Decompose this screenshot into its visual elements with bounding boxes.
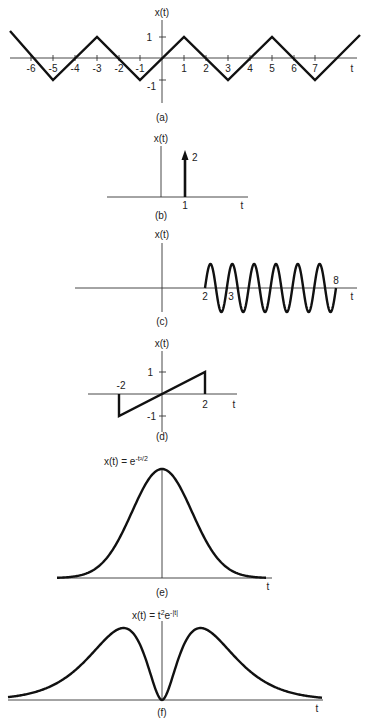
c-xtick: 3 — [228, 291, 234, 302]
f-t2-exp-curve — [8, 628, 322, 700]
a-xlabel: t — [351, 63, 354, 74]
f-caption: (f) — [157, 707, 166, 718]
d-ytick-1: 1 — [147, 367, 153, 378]
panel-c: x(t) 2 3 8 t (c) — [75, 229, 357, 327]
panel-f: x(t) = t2e-|t| t (f) — [8, 609, 323, 718]
e-xlabel: t — [267, 581, 270, 592]
d-caption: (d) — [156, 431, 168, 442]
b-impulse-label: 2 — [192, 152, 198, 163]
a-xtick: 5 — [269, 63, 275, 74]
a-ylabel: x(t) — [155, 7, 169, 18]
e-ylabel: x(t) = e-t²/2 — [104, 455, 148, 467]
e-caption: (e) — [156, 587, 168, 598]
c-xlabel: t — [351, 291, 354, 302]
panel-b: x(t) 2 1 t (b) — [107, 133, 248, 221]
panel-e: x(t) = e-t²/2 t (e) — [57, 455, 272, 598]
c-caption: (c) — [156, 316, 168, 327]
a-xtick: -6 — [27, 63, 36, 74]
a-xtick: -2 — [115, 63, 124, 74]
a-xtick: 7 — [312, 63, 318, 74]
c-ylabel: x(t) — [155, 229, 169, 240]
panel-d: x(t) 1 -1 -2 2 t (d) — [88, 338, 237, 442]
a-xtick: 6 — [291, 63, 297, 74]
a-xtick: 1 — [181, 63, 187, 74]
b-xtick: 1 — [182, 200, 188, 211]
a-xtick: 3 — [225, 63, 231, 74]
b-xlabel: t — [241, 200, 244, 211]
a-xtick: -1 — [136, 63, 145, 74]
arrow-up-icon — [182, 150, 189, 160]
a-xtick: -5 — [49, 63, 58, 74]
a-xtick: -4 — [71, 63, 80, 74]
a-xtick: 4 — [247, 63, 253, 74]
d-xtick: -2 — [117, 380, 126, 391]
b-ylabel: x(t) — [154, 133, 168, 144]
c-xtick: 8 — [333, 275, 339, 286]
a-ytick-1: 1 — [146, 32, 152, 43]
d-xlabel: t — [233, 399, 236, 410]
d-xtick: 2 — [202, 399, 208, 410]
f-xlabel: t — [316, 703, 319, 714]
a-ytick-neg1: -1 — [147, 81, 156, 92]
a-xtick: -3 — [93, 63, 102, 74]
f-ylabel: x(t) = t2e-|t| — [132, 609, 178, 621]
panel-a: x(t) 1 -1 -6 -5 -4 -3 -2 -1 1 2 3 4 5 6 … — [10, 7, 360, 123]
a-xtick: 2 — [203, 63, 209, 74]
d-ylabel: x(t) — [155, 338, 169, 349]
e-gaussian-curve — [57, 469, 266, 578]
a-caption: (a) — [156, 112, 168, 123]
d-ytick-neg1: -1 — [147, 411, 156, 422]
b-caption: (b) — [155, 210, 167, 221]
c-xtick: 2 — [202, 291, 208, 302]
signal-figure: x(t) 1 -1 -6 -5 -4 -3 -2 -1 1 2 3 4 5 6 … — [0, 0, 371, 728]
